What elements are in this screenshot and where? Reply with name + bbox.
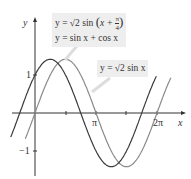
callout-pointer-2 [92, 78, 110, 92]
callout-line-1: y = √2 sin (x + π4) [55, 15, 123, 32]
y-tick-label-minus1: −1 [19, 146, 30, 156]
callout-line-2: y = sin x + cos x [55, 32, 123, 45]
x-axis-label: x [178, 118, 182, 128]
x-tick-label-2pi: 2π [153, 118, 163, 128]
callout-box-sqrt2-sinx: y = √2 sin x [97, 60, 148, 77]
x-tick-label-pi: π [92, 118, 97, 128]
y-axis-arrow-icon [33, 17, 37, 22]
y-tick-label-1: 1 [26, 70, 31, 80]
callout-box-shifted: y = √2 sin (x + π4) y = sin x + cos x [52, 13, 126, 47]
y-axis-label: y [23, 18, 27, 28]
x-axis-arrow-icon [181, 111, 186, 115]
